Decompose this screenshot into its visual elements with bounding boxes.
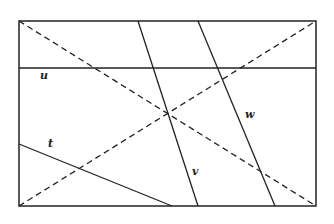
label-t: t xyxy=(48,137,53,150)
line-t xyxy=(19,144,172,206)
line-w xyxy=(198,21,275,206)
label-u: u xyxy=(40,69,48,82)
label-v: v xyxy=(192,165,199,178)
line-diagram: u t v w xyxy=(0,0,334,224)
label-w: w xyxy=(245,108,255,121)
